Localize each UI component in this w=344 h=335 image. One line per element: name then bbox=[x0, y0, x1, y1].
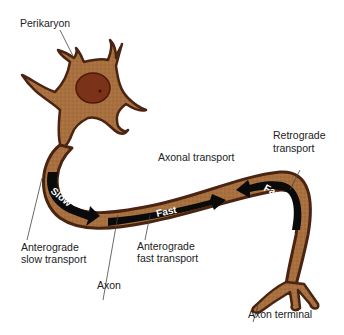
nucleus bbox=[76, 73, 110, 103]
label-axon-terminal: Axon terminal bbox=[248, 308, 312, 320]
axon-body bbox=[43, 145, 318, 313]
neuron-diagram: Slow Fast Fast Perikaryon Axonal transpo… bbox=[0, 0, 344, 335]
label-retrograde-2: transport bbox=[273, 142, 315, 154]
label-antero-slow-2: slow transport bbox=[21, 253, 86, 265]
perikaryon-cell-body bbox=[22, 40, 146, 150]
label-antero-fast-1: Anterograde bbox=[137, 240, 195, 252]
leader-antero-slow bbox=[27, 178, 42, 240]
label-axonal-transport: Axonal transport bbox=[158, 151, 235, 163]
label-perikaryon: Perikaryon bbox=[20, 17, 70, 29]
label-axon: Axon bbox=[97, 279, 121, 291]
label-antero-fast-2: fast transport bbox=[137, 252, 198, 264]
label-retrograde-1: Retrograde bbox=[273, 129, 326, 141]
label-antero-slow-1: Anterograde bbox=[21, 241, 79, 253]
